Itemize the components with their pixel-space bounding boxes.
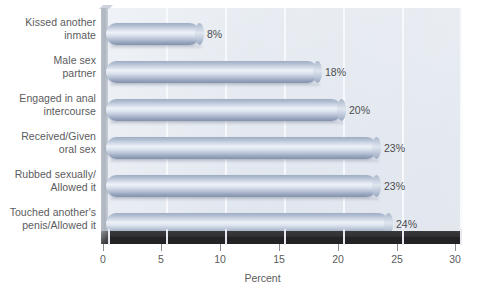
x-tick-label: 15 [264,253,294,265]
tick-mark [338,244,339,251]
gridline [460,8,462,236]
bar-value-label: 24% [396,218,417,230]
bar-value-label: 8% [207,28,222,40]
category-label-line: Kissed another [0,16,96,29]
tick-mark [397,244,398,251]
tick-mark [220,244,221,251]
bar-engaged-in-anal-intercourse [106,99,342,121]
x-tick-label: 0 [88,253,118,265]
tick-mark [279,244,280,251]
tick-mark [161,244,162,251]
bar-value-label: 23% [384,142,405,154]
category-label: Rubbed sexually/ Allowed it [0,168,96,193]
category-label-line: Engaged in anal [0,92,96,105]
gridline [402,8,404,236]
tick-slab [460,229,462,245]
category-label: Male sex partner [0,54,96,79]
x-tick-label: 30 [440,253,470,265]
x-axis-title: Percent [0,272,485,284]
x-tick-label: 20 [323,253,353,265]
bar-value-label: 20% [349,104,370,116]
x-tick-label: 25 [382,253,412,265]
tick-slab [225,229,227,245]
bar-value-label: 23% [384,180,405,192]
bar-end-cap [313,61,322,83]
tick-mark [455,244,456,251]
plot-left-wall [101,8,108,237]
category-axis-labels: Kissed another inmate Male sex partner E… [0,8,100,236]
tick-slab [166,229,168,245]
bar-end-cap [372,137,381,159]
category-label: Kissed another inmate [0,16,96,41]
bar-end-cap [372,175,381,197]
axis-floor-front [101,237,462,244]
category-label: Touched another's penis/Allowed it [0,206,96,231]
tick-slab [343,229,345,245]
bar-chart: Kissed another inmate Male sex partner E… [0,0,485,293]
tick-slab [284,229,286,245]
tick-slab [402,229,404,245]
category-label-line: Received/Given [0,130,96,143]
category-label-line: inmate [0,29,96,42]
category-label-line: Male sex [0,54,96,67]
category-label-line: Rubbed sexually/ [0,168,96,181]
bar-received-given-oral-sex [106,137,377,159]
category-label-line: intercourse [0,105,96,118]
bar-kissed-another-inmate [106,23,200,45]
bar-value-label: 18% [325,66,346,78]
x-tick-label: 10 [205,253,235,265]
bar-shadow [110,197,379,200]
bar-male-sex-partner [106,61,318,83]
tick-slab [108,229,110,245]
category-label-line: oral sex [0,143,96,156]
bar-end-cap [195,23,204,45]
bar-end-cap [337,99,346,121]
bar-shadow [110,83,320,86]
category-label-line: Allowed it [0,181,96,194]
category-label-line: Touched another's [0,206,96,219]
category-label: Received/Given oral sex [0,130,96,155]
category-label: Engaged in anal intercourse [0,92,96,117]
tick-mark [103,244,104,251]
category-label-line: partner [0,67,96,80]
bar-shadow [110,45,202,48]
bar-shadow [110,159,379,162]
x-tick-label: 5 [146,253,176,265]
bar-shadow [110,121,344,124]
category-label-line: penis/Allowed it [0,219,96,232]
bar-rubbed-sexually-allowed-it [106,175,377,197]
